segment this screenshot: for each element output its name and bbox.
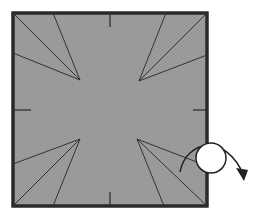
origami-diagram <box>0 0 263 222</box>
arrowhead-icon <box>236 168 248 181</box>
turn-over-circle-icon <box>196 143 226 173</box>
